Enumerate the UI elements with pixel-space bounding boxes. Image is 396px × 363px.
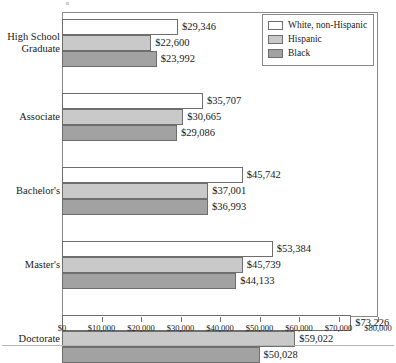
- bar-value-label: $29,086: [181, 125, 215, 141]
- bar-value-label: $37,001: [212, 183, 246, 199]
- bar: [62, 35, 151, 51]
- category-label: Doctorate: [0, 333, 60, 345]
- bar: [62, 183, 208, 199]
- bar-row: $30,665: [62, 109, 378, 125]
- bar-value-label: $23,992: [161, 51, 195, 67]
- legend-swatch-white-icon: [268, 21, 283, 30]
- legend-item-white: White, non-Hispanic: [268, 19, 368, 32]
- x-axis-tick: [299, 317, 300, 322]
- bar: [62, 241, 273, 257]
- legend-item-hispanic: Hispanic: [268, 33, 368, 46]
- legend-item-black: Black: [268, 47, 368, 60]
- category-label: Associate: [0, 111, 60, 123]
- bar-value-label: $22,600: [155, 35, 189, 51]
- x-axis-tick-label: $80,000: [353, 323, 396, 333]
- bar-value-label: $50,028: [264, 347, 298, 363]
- page-artifact: [66, 2, 69, 5]
- bar-row: $37,001: [62, 183, 378, 199]
- x-axis-tick: [339, 317, 340, 322]
- legend-swatch-hispanic-icon: [268, 35, 283, 44]
- bar-value-label: $44,133: [240, 273, 274, 289]
- legend-label-white: White, non-Hispanic: [288, 20, 367, 31]
- bar-value-label: $36,993: [212, 199, 246, 215]
- legend-swatch-black-icon: [268, 49, 283, 58]
- bar: [62, 51, 157, 67]
- bar-group: $45,742$37,001$36,993: [62, 167, 378, 215]
- x-axis-tick: [378, 317, 379, 322]
- bar: [62, 257, 243, 273]
- legend-label-hispanic: Hispanic: [288, 34, 322, 45]
- bar-row: $36,993: [62, 199, 378, 215]
- x-axis-tick: [141, 317, 142, 322]
- bar-row: $50,028: [62, 347, 378, 363]
- bar-value-label: $45,739: [247, 257, 281, 273]
- bar-value-label: $45,742: [247, 167, 281, 183]
- footer-divider: [2, 345, 394, 346]
- bar: [62, 93, 203, 109]
- bar-row: $35,707: [62, 93, 378, 109]
- legend-label-black: Black: [288, 48, 310, 59]
- x-axis-tick: [102, 317, 103, 322]
- bar: [62, 19, 178, 35]
- bar-row: $45,742: [62, 167, 378, 183]
- category-label: Bachelor's: [0, 185, 60, 197]
- x-axis-tick: [260, 317, 261, 322]
- bar-row: $44,133: [62, 273, 378, 289]
- chart-legend: White, non-Hispanic Hispanic Black: [262, 14, 374, 66]
- bar: [62, 125, 177, 141]
- bar-group: $35,707$30,665$29,086: [62, 93, 378, 141]
- bar: [62, 199, 208, 215]
- category-label: Master's: [0, 259, 60, 271]
- x-axis-tick: [220, 317, 221, 322]
- bar-row: $29,086: [62, 125, 378, 141]
- bar: [62, 347, 260, 363]
- bar-row: $45,739: [62, 257, 378, 273]
- bar: [62, 167, 243, 183]
- bar-value-label: $35,707: [207, 93, 241, 109]
- bar-row: $53,384: [62, 241, 378, 257]
- bar-group: $53,384$45,739$44,133: [62, 241, 378, 289]
- bar: [62, 273, 236, 289]
- bar-value-label: $29,346: [182, 19, 216, 35]
- bar-value-label: $30,665: [187, 109, 221, 125]
- x-axis-tick: [181, 317, 182, 322]
- x-axis-tick: [62, 317, 63, 322]
- category-label: High School Graduate: [0, 31, 60, 55]
- bar-value-label: $53,384: [277, 241, 311, 257]
- bar: [62, 109, 183, 125]
